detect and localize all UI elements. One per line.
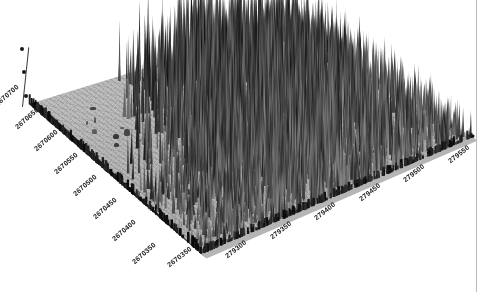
forest-canopy-pointcloud [0, 0, 485, 292]
lidar-3d-plot: 2670700267065026706002670550267050026704… [0, 0, 485, 292]
z-axis-tick-1 [22, 70, 26, 74]
z-axis-tick-0 [20, 47, 24, 51]
plot-frame-right-border [476, 0, 477, 292]
z-axis-tick-2 [24, 94, 28, 98]
